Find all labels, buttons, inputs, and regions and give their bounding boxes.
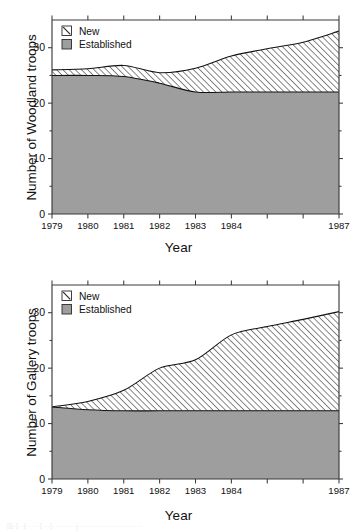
page-bleed-artifact: ·lli·l··f·····l···l·········j···········… <box>0 522 357 531</box>
series-areas <box>52 31 339 214</box>
svg-text:1979: 1979 <box>41 220 62 231</box>
svg-text:1982: 1982 <box>149 220 170 231</box>
svg-text:0: 0 <box>39 473 45 485</box>
svg-text:1982: 1982 <box>149 485 170 496</box>
legend: NewEstablished <box>62 26 132 51</box>
legend-label-new: New <box>79 26 100 37</box>
svg-text:1984: 1984 <box>221 485 243 496</box>
figure-page: Number of Woodland troops Year 010203019… <box>0 0 357 531</box>
bleed-text: ·lli·l··f·····l···l·········j···········… <box>0 522 357 531</box>
chart-gallery-troops: Number of Gallery troops Year 0102030197… <box>0 265 357 530</box>
svg-text:1983: 1983 <box>185 485 206 496</box>
legend: NewEstablished <box>62 291 132 316</box>
svg-text:1979: 1979 <box>41 485 62 496</box>
x-axis-label-woodland: Year <box>0 240 357 255</box>
legend-label-new: New <box>79 291 100 302</box>
x-axis-label-gallery: Year <box>0 508 357 523</box>
svg-text:0: 0 <box>39 208 45 220</box>
svg-text:1980: 1980 <box>77 220 98 231</box>
chart-woodland-troops: Number of Woodland troops Year 010203019… <box>0 0 357 265</box>
legend-label-established: Established <box>79 39 132 50</box>
svg-text:1983: 1983 <box>185 220 206 231</box>
legend-label-established: Established <box>79 304 132 315</box>
y-axis-label-gallery: Number of Gallery troops <box>24 283 39 483</box>
series-areas <box>52 312 339 479</box>
svg-text:1981: 1981 <box>113 485 134 496</box>
plot-area-woodland: 01020301979198019811982198319841987NewEs… <box>0 0 357 240</box>
svg-text:1980: 1980 <box>77 485 98 496</box>
plot-area-gallery: 01020301979198019811982198319841987NewEs… <box>0 265 357 508</box>
svg-text:1987: 1987 <box>328 485 349 496</box>
svg-text:1984: 1984 <box>221 220 243 231</box>
svg-text:1987: 1987 <box>328 220 349 231</box>
y-axis-label-woodland: Number of Woodland troops <box>24 18 39 218</box>
svg-text:1981: 1981 <box>113 220 134 231</box>
